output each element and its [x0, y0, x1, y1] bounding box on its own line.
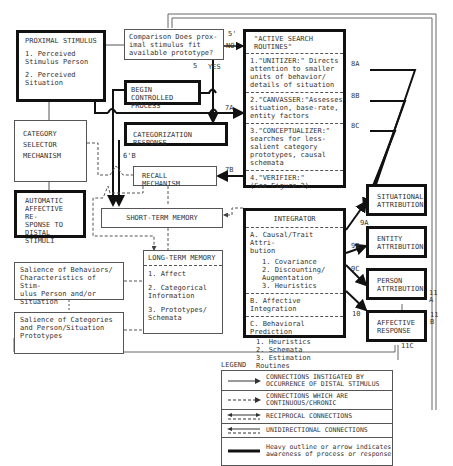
- legend-row-heavy: Heavy outline or arrow indicates awarene…: [222, 437, 392, 464]
- legend-row-continuous: CONNECTIONS WHICH ARE CONTINUOUS/CHRONIC: [222, 390, 392, 409]
- comparison-box: Comparison Does prox- imal stimulus fit …: [124, 29, 224, 60]
- person-attribution-text: PERSON ATTRIBUTION: [377, 277, 416, 293]
- ltm-item-categorical: 2. Categorical Information: [148, 284, 218, 300]
- ltm-item-prototypes: 3. Prototypes/ Schemata: [148, 306, 218, 322]
- dashed-arrow-icon: [222, 397, 266, 403]
- edge-label-5prime: 5': [228, 30, 236, 38]
- causal-trait-items: 1. Covariance 2. Discounting/ Augmentati…: [250, 258, 339, 290]
- categorization-response-text: CATEGORIZATION RESPONSE: [133, 131, 219, 147]
- edge-label-9a: 9A: [360, 219, 368, 227]
- category-selector-box: CATEGORY SELECTOR MECHANISM: [14, 120, 87, 182]
- edge-label-8a: 8A: [351, 60, 359, 68]
- active-search-title: "ACTIVE SEARCH ROUTINES": [246, 32, 343, 53]
- ltm-item-affect: 1. Affect: [148, 270, 218, 278]
- legend-text: Heavy outline or arrow indicates awarene…: [266, 444, 391, 458]
- long-term-memory-title: LONG-TERM MEMORY: [144, 251, 222, 265]
- proximal-stimulus-title: PROXIMAL STIMULUS: [25, 37, 97, 45]
- affective-integration-head: B. Affective Integration: [250, 297, 339, 313]
- comparison-text: Comparison Does prox- imal stimulus fit …: [129, 33, 219, 57]
- situational-attribution-text: SITUATIONAL ATTRIBUTION: [377, 193, 416, 209]
- legend-row-reciprocal: RECIPROCAL CONNECTIONS: [222, 409, 392, 423]
- legend-title: LEGEND: [221, 361, 246, 369]
- proximal-stimulus-box: PROXIMAL STIMULUS 1. Perceived Stimulus …: [16, 30, 106, 102]
- legend-box: CONNECTIONS INSTIGATED BY OCCURRENCE OF …: [221, 370, 393, 466]
- recall-mechanism-box: RECALL MECHANISM: [133, 166, 217, 186]
- salience-categories-box: Salience of Categories and Person/Situat…: [14, 312, 124, 354]
- begin-controlled-process-box: BEGIN CONTROLLED PROCESS: [124, 80, 201, 105]
- edge-label-10: 10: [352, 310, 360, 318]
- behavioral-prediction-section: C. Behavioral Prediction 1. Heuristics 2…: [246, 316, 343, 373]
- salience-behaviors-text: Salience of Behaviors/ Characteristics o…: [20, 266, 118, 306]
- causal-trait-head: A. Causal/Trait Attri- bution: [250, 231, 339, 255]
- edge-label-8b: 8B: [351, 92, 359, 100]
- causal-trait-section: A. Causal/Trait Attri- bution 1. Covaria…: [246, 227, 343, 293]
- automatic-affective-response-box: AUTOMATIC AFFECTIVE RE- SPONSE TO DISTAL…: [14, 190, 86, 238]
- affective-integration-section: B. Affective Integration: [246, 293, 343, 316]
- edge-label-5: 5: [193, 62, 197, 70]
- proximal-stimulus-item: 2. Perceived Situation: [25, 71, 97, 87]
- salience-categories-text: Salience of Categories and Person/Situat…: [20, 316, 118, 340]
- reciprocal-arrow-icon: [222, 413, 266, 421]
- canvasser-section: 2."CANVASSER:"Assesses situation, base-r…: [246, 92, 343, 123]
- long-term-memory-items: 1. Affect 2. Categorical Information 3. …: [144, 265, 222, 326]
- behavioral-prediction-items: 1. Heuristics 2. Schemata 3. Estimation …: [250, 338, 339, 370]
- integrator-title: INTEGRATOR: [246, 211, 343, 227]
- heavy-line-icon: [222, 448, 266, 454]
- behavioral-prediction-head: C. Behavioral Prediction: [250, 320, 339, 336]
- legend-text: RECIPROCAL CONNECTIONS: [266, 413, 352, 420]
- short-term-memory-text: SHORT-TERM MEMORY: [102, 214, 222, 222]
- edge-label-11b: 11 B: [430, 312, 438, 326]
- edge-label-9c: 9C: [351, 265, 359, 273]
- begin-controlled-text: BEGIN CONTROLLED PROCESS: [131, 86, 194, 110]
- entity-attribution-text: ENTITY ATTRIBUTION: [377, 235, 416, 251]
- edge-label-yes: YES: [208, 63, 221, 71]
- person-attribution-box: PERSON ATTRIBUTION: [366, 268, 427, 300]
- edge-label-9b: 9B: [351, 242, 359, 250]
- category-selector-text: CATEGORY SELECTOR MECHANISM: [23, 129, 78, 162]
- entity-attribution-box: ENTITY ATTRIBUTION: [366, 226, 427, 258]
- recall-mechanism-text: RECALL MECHANISM: [142, 172, 208, 188]
- edge-label-6b: 6'B: [123, 152, 136, 160]
- edge-label-11c: 11C: [401, 342, 414, 350]
- legend-row-unidirectional: UNIDIRECTIONAL CONNECTIONS: [222, 423, 392, 437]
- verifier-section: 4."VERIFIER:" (See Figure 3): [246, 170, 343, 193]
- situational-attribution-box: SITUATIONAL ATTRIBUTION: [366, 184, 427, 216]
- edge-label-7a: 7A: [225, 104, 233, 112]
- legend-text: CONNECTIONS INSTIGATED BY OCCURRENCE OF …: [266, 374, 380, 388]
- solid-arrow-icon: [222, 378, 266, 384]
- proximal-stimulus-item: 1. Perceived Stimulus Person: [25, 50, 97, 66]
- short-term-memory-box: SHORT-TERM MEMORY: [101, 208, 223, 228]
- conceptualizer-section: 3."CONCEPTUALIZER:" searches for less- s…: [246, 123, 343, 170]
- legend-row-instigated: CONNECTIONS INSTIGATED BY OCCURRENCE OF …: [222, 371, 392, 390]
- automatic-affective-text: AUTOMATIC AFFECTIVE RE- SPONSE TO DISTAL…: [25, 197, 75, 245]
- integrator-box: INTEGRATOR A. Causal/Trait Attri- bution…: [243, 208, 346, 338]
- unitizer-section: 1."UNITIZER:" Directs attention to small…: [246, 53, 343, 92]
- long-term-memory-box: LONG-TERM MEMORY 1. Affect 2. Categorica…: [143, 250, 223, 334]
- affective-response-box: AFFECTIVE RESPONSE: [366, 310, 427, 342]
- salience-behaviors-box: Salience of Behaviors/ Characteristics o…: [14, 262, 124, 300]
- edge-label-8c: 8C: [351, 122, 359, 130]
- active-search-routines-box: "ACTIVE SEARCH ROUTINES" 1."UNITIZER:" D…: [243, 29, 346, 188]
- edge-label-11a: 11 A: [429, 290, 437, 304]
- categorization-response-box: CATEGORIZATION RESPONSE: [124, 122, 228, 146]
- edge-label-no: NO: [226, 42, 234, 50]
- unidirectional-arrow-icon: [222, 427, 266, 435]
- edge-label-7b: 7B: [225, 166, 233, 174]
- legend-text: UNIDIRECTIONAL CONNECTIONS: [266, 427, 368, 434]
- affective-response-text: AFFECTIVE RESPONSE: [377, 319, 416, 335]
- legend-text: CONNECTIONS WHICH ARE CONTINUOUS/CHRONIC: [266, 393, 348, 407]
